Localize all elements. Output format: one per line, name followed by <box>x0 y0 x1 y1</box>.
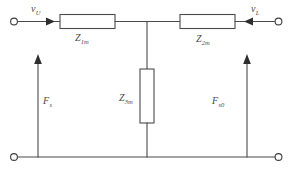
label-output-voltage-subscript: L <box>256 9 260 16</box>
label-input-voltage-subscript: U <box>36 9 41 16</box>
label-output-voltage-symbol: v <box>251 3 255 14</box>
terminal-bottom-left <box>11 154 18 161</box>
label-z2m: Z2m <box>196 34 210 44</box>
label-force-left-subscript: s <box>49 101 52 108</box>
label-force-right: Fs0 <box>212 96 224 106</box>
force-arrow-right-head-icon <box>243 54 251 64</box>
label-z1m-symbol: Z <box>75 32 81 43</box>
label-z2m-subscript: 2m <box>202 39 210 46</box>
label-z1m: Z1m <box>75 33 89 43</box>
terminal-bottom-right <box>275 154 282 161</box>
label-force-right-subscript: s0 <box>218 101 224 108</box>
label-z3m: Z3m <box>119 93 133 103</box>
terminal-top-left <box>11 18 18 25</box>
component-z3m-body <box>140 69 154 123</box>
terminal-top-right <box>275 18 282 25</box>
circuit-diagram: vU vL Z1m Z2m Z3m Fs Fs0 <box>0 0 293 173</box>
output-current-arrow-icon <box>244 18 253 26</box>
force-arrow-left-head-icon <box>34 54 42 64</box>
circuit-schematic-canvas <box>0 0 293 173</box>
label-force-left: Fs <box>43 96 52 106</box>
component-z1m-body <box>60 15 115 29</box>
input-current-arrow-icon <box>46 18 55 26</box>
component-z2m-body <box>180 15 235 29</box>
label-z3m-symbol: Z <box>119 92 125 103</box>
label-output-voltage: vL <box>251 4 259 14</box>
label-z1m-subscript: 1m <box>81 38 89 45</box>
label-input-voltage-symbol: v <box>31 3 35 14</box>
label-z3m-subscript: 3m <box>125 98 133 105</box>
label-z2m-symbol: Z <box>196 33 202 44</box>
label-input-voltage: vU <box>31 4 40 14</box>
